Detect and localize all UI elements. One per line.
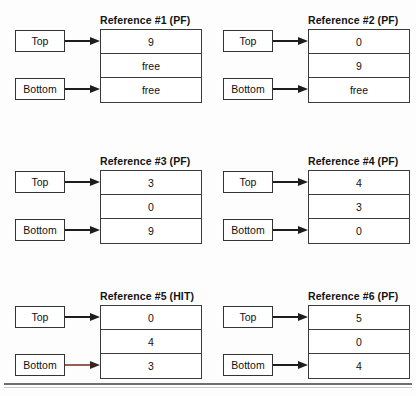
reference-panel: Reference #5 (HIT)TopBottom043 xyxy=(0,290,204,396)
stack-cell[interactable]: free xyxy=(101,78,201,102)
arrow-shaft xyxy=(65,88,92,90)
stack-cell[interactable]: 5 xyxy=(309,306,409,330)
arrow-head-icon xyxy=(90,178,100,186)
stack-cell[interactable]: 4 xyxy=(101,330,201,354)
stack-cell[interactable]: 0 xyxy=(309,30,409,54)
arrow-head-icon xyxy=(90,85,100,93)
panel-title: Reference #2 (PF) xyxy=(308,14,398,26)
arrow-shaft xyxy=(65,364,92,366)
panel-title: Reference #6 (PF) xyxy=(308,290,398,302)
arrow-shaft xyxy=(65,181,92,183)
pointer-arrow-top xyxy=(273,178,308,187)
pointer-arrow-bottom xyxy=(65,226,100,235)
pointer-arrow-top xyxy=(65,313,100,322)
arrow-shaft xyxy=(273,229,300,231)
pointer-box-bottom[interactable]: Bottom xyxy=(15,219,65,241)
stack-cell[interactable]: free xyxy=(101,54,201,78)
stack: 09free xyxy=(308,29,410,103)
pointer-box-bottom[interactable]: Bottom xyxy=(223,219,273,241)
pointer-box-bottom[interactable]: Bottom xyxy=(223,354,273,376)
pointer-box-bottom[interactable]: Bottom xyxy=(15,354,65,376)
stack-cell[interactable]: 4 xyxy=(309,171,409,195)
panel-title: Reference #1 (PF) xyxy=(100,14,190,26)
pointer-box-bottom[interactable]: Bottom xyxy=(223,78,273,100)
stack-cell[interactable]: 0 xyxy=(101,306,201,330)
stack: 430 xyxy=(308,170,410,244)
pointer-arrow-bottom xyxy=(273,361,308,370)
arrow-head-icon xyxy=(298,226,308,234)
stack-cell[interactable]: 9 xyxy=(309,54,409,78)
pointer-box-top[interactable]: Top xyxy=(223,306,273,328)
reference-panel: Reference #2 (PF)TopBottom09free xyxy=(208,14,412,134)
stack-cell[interactable]: 0 xyxy=(309,219,409,243)
panel-title: Reference #3 (PF) xyxy=(100,155,190,167)
footer-divider-shadow xyxy=(4,387,412,388)
arrow-shaft xyxy=(273,181,300,183)
stack-cell[interactable]: 3 xyxy=(309,195,409,219)
arrow-head-icon xyxy=(90,37,100,45)
pointer-box-top[interactable]: Top xyxy=(15,171,65,193)
pointer-arrow-bottom xyxy=(65,361,100,370)
pointer-box-top[interactable]: Top xyxy=(223,30,273,52)
arrow-head-icon xyxy=(298,85,308,93)
arrow-head-icon xyxy=(90,361,100,369)
arrow-head-icon xyxy=(90,226,100,234)
reference-panel: Reference #4 (PF)TopBottom430 xyxy=(208,155,412,275)
stack-cell[interactable]: 0 xyxy=(309,330,409,354)
reference-panel: Reference #3 (PF)TopBottom309 xyxy=(0,155,204,275)
stack-cell[interactable]: 3 xyxy=(101,171,201,195)
pointer-arrow-top xyxy=(273,313,308,322)
stack: 9freefree xyxy=(100,29,202,103)
stack-cell[interactable]: free xyxy=(309,78,409,102)
arrow-head-icon xyxy=(298,313,308,321)
arrow-head-icon xyxy=(298,37,308,45)
stack-cell[interactable]: 9 xyxy=(101,30,201,54)
stack: 504 xyxy=(308,305,410,379)
arrow-head-icon xyxy=(298,178,308,186)
pointer-arrow-top xyxy=(65,37,100,46)
stack: 043 xyxy=(100,305,202,379)
stack-cell[interactable]: 4 xyxy=(309,354,409,378)
stack-cell[interactable]: 0 xyxy=(101,195,201,219)
pointer-box-top[interactable]: Top xyxy=(15,30,65,52)
diagram-canvas: Reference #1 (PF)TopBottom9freefree Refe… xyxy=(0,0,416,396)
reference-panel: Reference #1 (PF)TopBottom9freefree xyxy=(0,14,204,134)
arrow-shaft xyxy=(273,316,300,318)
arrow-shaft xyxy=(273,364,300,366)
arrow-shaft xyxy=(65,316,92,318)
panel-title: Reference #4 (PF) xyxy=(308,155,398,167)
arrow-shaft xyxy=(65,229,92,231)
arrow-shaft xyxy=(273,40,300,42)
arrow-head-icon xyxy=(90,313,100,321)
pointer-box-top[interactable]: Top xyxy=(15,306,65,328)
pointer-box-top[interactable]: Top xyxy=(223,171,273,193)
stack: 309 xyxy=(100,170,202,244)
pointer-arrow-top xyxy=(273,37,308,46)
footer-divider xyxy=(4,383,412,385)
reference-panel: Reference #6 (PF)TopBottom504 xyxy=(208,290,412,396)
pointer-arrow-top xyxy=(65,178,100,187)
pointer-arrow-bottom xyxy=(273,226,308,235)
arrow-head-icon xyxy=(298,361,308,369)
arrow-shaft xyxy=(65,40,92,42)
pointer-box-bottom[interactable]: Bottom xyxy=(15,78,65,100)
pointer-arrow-bottom xyxy=(273,85,308,94)
stack-cell[interactable]: 3 xyxy=(101,354,201,378)
arrow-shaft xyxy=(273,88,300,90)
panel-title: Reference #5 (HIT) xyxy=(100,290,194,302)
pointer-arrow-bottom xyxy=(65,85,100,94)
stack-cell[interactable]: 9 xyxy=(101,219,201,243)
